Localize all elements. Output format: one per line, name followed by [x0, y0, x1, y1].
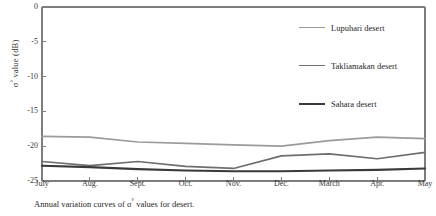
figure-caption: Annual variation curves of σ° values for… — [34, 198, 194, 209]
series-line-lupuhari-desert — [42, 136, 425, 146]
x-axis-tick-label-7: Apr. — [370, 180, 384, 188]
legend-label: Sahara desert — [331, 99, 377, 109]
caption-suffix: values for desert. — [134, 199, 194, 209]
legend-item-lupuhari-desert: Lupuhari desert — [299, 22, 434, 33]
x-axis-tick-label-4: Nov. — [226, 180, 241, 188]
legend-label: Lupuhari desert — [331, 23, 385, 33]
x-axis-tick-label-3: Oct. — [179, 180, 193, 188]
x-axis-tick-label-1: Aug. — [82, 180, 98, 188]
legend-item-takliamakan-desert: Takliamakan desert — [299, 60, 434, 71]
x-axis-tick-label-0: July — [35, 180, 48, 188]
legend-line-swatch — [299, 103, 325, 105]
data-series-group — [42, 136, 425, 171]
x-axis-tick-label-8: May — [418, 180, 433, 188]
x-axis-tick-label-6: March — [319, 180, 340, 188]
legend-label: Takliamakan desert — [331, 61, 397, 71]
x-axis-tick-labels: JulyAug.Sept.Oct.Nov.Dec.MarchApr.May — [0, 180, 436, 196]
caption-prefix: Annual variation curves of — [34, 199, 127, 209]
x-axis-tick-label-2: Sept. — [130, 180, 146, 188]
legend-item-sahara-desert: Sahara desert — [299, 98, 434, 109]
legend: Lupuhari desertTakliamakan desertSahara … — [299, 22, 434, 136]
legend-line-swatch — [299, 65, 325, 66]
legend-line-swatch — [299, 27, 325, 28]
x-axis-tick-label-5: Dec. — [274, 180, 289, 188]
figure-annual-variation-curves: σ° value (dB) 0-5-10-15-20-25 JulyAug.Se… — [0, 0, 436, 216]
series-line-takliamakan-desert — [42, 152, 425, 168]
